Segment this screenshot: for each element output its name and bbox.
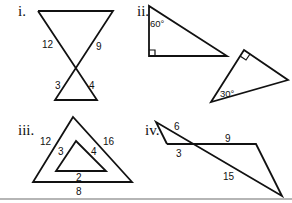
- figure-ii: ii. 60° 30°: [137, 3, 288, 102]
- figure-i: i. 12 9 3 4: [18, 3, 113, 100]
- figure-iii: iii. 12 16 8 3 4 2: [18, 117, 132, 197]
- figure-iv-side-6: 6: [174, 121, 180, 132]
- figure-iii-inner-4: 4: [91, 146, 97, 157]
- figure-iii-label: iii.: [18, 122, 34, 138]
- figure-iii-outer-8: 8: [76, 186, 82, 197]
- similar-triangles-diagram: i. 12 9 3 4 ii. 60° 30° iii. 12 16 8 3 4…: [0, 0, 292, 203]
- figure-i-side-9: 9: [96, 41, 102, 52]
- figure-iv-side-9: 9: [225, 133, 231, 144]
- figure-iii-inner-3: 3: [58, 146, 64, 157]
- figure-ii-right-triangle-a: [149, 6, 227, 56]
- figure-i-side-3: 3: [55, 80, 61, 91]
- figure-iii-inner-2: 2: [76, 172, 82, 183]
- figure-iv-side-3: 3: [176, 148, 182, 159]
- figure-ii-label: ii.: [137, 3, 149, 19]
- figure-i-side-4: 4: [89, 80, 95, 91]
- figure-i-label: i.: [18, 3, 26, 19]
- figure-iv-side-15: 15: [223, 171, 235, 182]
- figure-iii-outer-16: 16: [103, 136, 115, 147]
- figure-i-bowtie: [38, 11, 113, 100]
- figure-iii-outer-12: 12: [40, 136, 52, 147]
- figure-iv-triangles: [156, 122, 282, 196]
- figure-i-side-12: 12: [42, 39, 54, 50]
- figure-iii-outer-triangle: [33, 117, 132, 182]
- figure-ii-angle-60: 60°: [150, 18, 165, 29]
- figure-iv: iv. 6 3 9 15: [145, 121, 282, 196]
- figure-ii-angle-30: 30°: [220, 88, 235, 99]
